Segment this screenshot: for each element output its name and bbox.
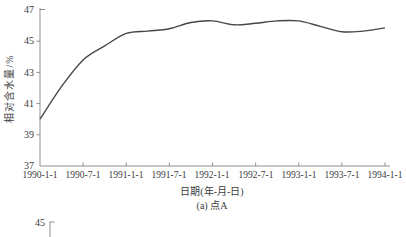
- y-tick-label: 41: [12, 98, 34, 109]
- x-axis-title: 日期(年-月-日): [132, 186, 292, 197]
- x-tick-label: 1991-1-1: [104, 170, 148, 181]
- next-chart-y-tick-label: 45: [23, 217, 45, 228]
- x-tick-label: 1994-1-1: [363, 170, 406, 181]
- series-line: [40, 20, 385, 119]
- y-tick-label: 39: [12, 129, 34, 140]
- y-tick-label: 43: [12, 67, 34, 78]
- subplot-caption: (a) 点A: [132, 200, 292, 211]
- y-axis-title: 相对含水量/%: [4, 39, 15, 139]
- y-tick-label: 45: [12, 35, 34, 46]
- x-tick-label: 1993-7-1: [320, 170, 364, 181]
- x-tick-label: 1990-1-1: [18, 170, 62, 181]
- line-chart-figure: 相对含水量/% 47 45 43 41 39 37 1990-1-1 1990-…: [0, 0, 406, 237]
- x-tick-label: 1990-7-1: [61, 170, 105, 181]
- x-tick-label: 1992-7-1: [234, 170, 278, 181]
- x-tick-label: 1993-1-1: [277, 170, 321, 181]
- y-tick-label: 47: [12, 4, 34, 15]
- x-tick-label: 1991-7-1: [147, 170, 191, 181]
- x-tick-label: 1992-1-1: [190, 170, 234, 181]
